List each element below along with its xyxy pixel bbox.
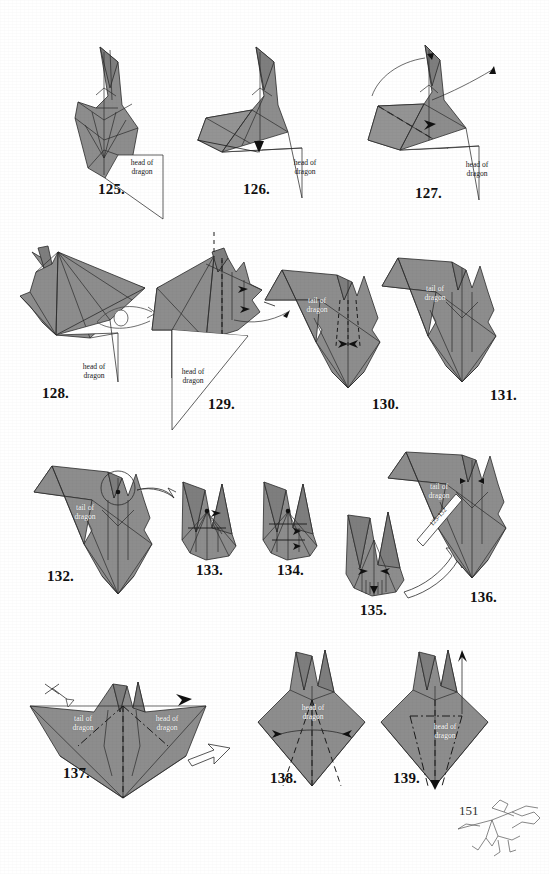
step-number-125: 125. xyxy=(98,181,125,198)
step-134-figure xyxy=(263,482,317,560)
step-139-figure xyxy=(381,650,488,790)
step-number-126: 126. xyxy=(243,181,270,198)
step-number-128: 128. xyxy=(42,385,69,402)
step-135-figure xyxy=(346,512,404,596)
callout-head-of-dragon-138: head of dragon xyxy=(292,703,334,721)
step-number-130: 130. xyxy=(372,396,399,413)
origami-instruction-page: 125. head of dragon 126. head of dragon … xyxy=(0,0,549,874)
callout-head-of-dragon-127: head of dragon xyxy=(456,160,498,178)
step-number-134: 134. xyxy=(277,562,304,579)
step-number-132: 132. xyxy=(47,568,74,585)
callout-head-of-dragon-139: head of dragon xyxy=(424,722,466,740)
step-133-figure xyxy=(182,482,236,560)
step-number-139: 139. xyxy=(393,770,420,787)
callout-tail-of-dragon-131: tail of dragon xyxy=(414,284,456,302)
callout-tail-of-dragon-132: tail of dragon xyxy=(64,503,106,521)
step-number-135: 135. xyxy=(360,602,387,619)
step-number-131: 131. xyxy=(490,387,517,404)
callout-head-of-dragon-129: head of dragon xyxy=(172,367,214,385)
callout-head-of-dragon-128: head of dragon xyxy=(73,362,115,380)
callout-head-of-dragon-125: head of dragon xyxy=(121,158,163,176)
callout-tail-of-dragon-130: tail of dragon xyxy=(296,296,338,314)
step-number-133: 133. xyxy=(196,562,223,579)
page-number: 151 xyxy=(459,803,479,819)
step-number-136: 136. xyxy=(470,589,497,606)
diagram-illustrations xyxy=(0,0,549,874)
step-137-figure xyxy=(30,682,230,798)
callout-tail-of-dragon-137: tail of dragon xyxy=(62,714,104,732)
callout-head-of-dragon-126: head of dragon xyxy=(284,158,326,176)
step-number-127: 127. xyxy=(415,185,442,202)
step-136-figure xyxy=(388,452,506,578)
step-130-figure xyxy=(264,270,380,388)
step-number-138: 138. xyxy=(270,770,297,787)
callout-head-of-dragon-137: head of dragon xyxy=(146,714,188,732)
step-131-figure xyxy=(382,258,496,382)
step-number-137: 137. xyxy=(63,765,90,782)
callout-tail-of-dragon-136: tail of dragon xyxy=(418,482,460,500)
step-number-129: 129. xyxy=(208,396,235,413)
